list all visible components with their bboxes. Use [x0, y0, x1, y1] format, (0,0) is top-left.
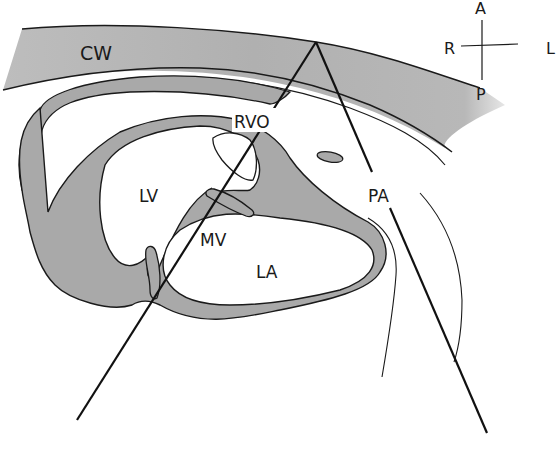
label-pa: PA	[368, 186, 389, 206]
label-chest-wall: CW	[80, 42, 112, 64]
orientation-right: R	[444, 39, 455, 58]
label-rvo: RVO	[234, 112, 270, 132]
orientation-posterior: P	[476, 85, 486, 104]
coronary-artery	[316, 150, 343, 164]
label-la: LA	[256, 262, 278, 282]
heart-diagram: CW RVO LV MV LA PA A P R L	[0, 0, 558, 469]
pulmonary-artery-wall-line	[420, 193, 462, 362]
label-mv: MV	[200, 230, 227, 250]
label-lv: LV	[139, 186, 159, 206]
orientation-anterior: A	[475, 0, 486, 18]
orientation-left: L	[546, 39, 555, 58]
myocardium	[19, 108, 386, 319]
